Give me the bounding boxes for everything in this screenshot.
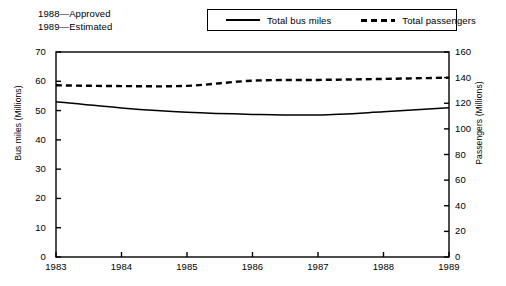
x-tick-label: 1986: [233, 262, 273, 272]
x-tick-label: 1989: [429, 262, 469, 272]
x-tick-label: 1984: [102, 262, 142, 272]
x-tick-label: 1987: [298, 262, 338, 272]
x-tick-label: 1988: [364, 262, 404, 272]
x-tick-label: 1985: [167, 262, 207, 272]
chart-figure: 1988—Approved 1989—Estimated Total bus m…: [0, 0, 506, 286]
x-axis-ticklabels: 1983198419851986198719881989: [0, 0, 506, 286]
x-tick-label: 1983: [36, 262, 76, 272]
